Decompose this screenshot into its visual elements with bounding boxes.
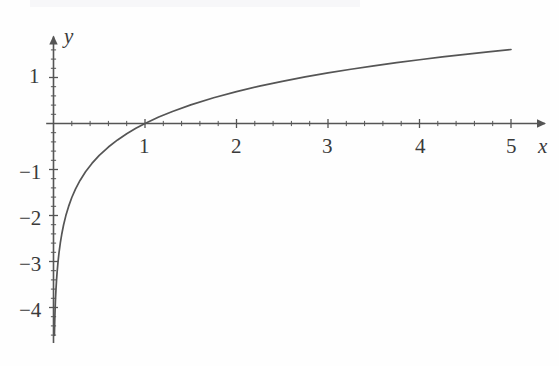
- y-tick-label-1: 1: [29, 66, 40, 87]
- x-tick-label-2: 2: [231, 136, 242, 157]
- tick-marks-group: [49, 50, 511, 335]
- y-tick-label-neg1: −1: [19, 162, 41, 183]
- figure-canvas: 1 2 3 4 5 1 −1 −2 −3 −4 x y: [0, 0, 559, 366]
- x-tick-label-4: 4: [415, 136, 426, 157]
- x-axis-label: x: [538, 136, 547, 157]
- y-tick-label-neg2: −2: [19, 208, 41, 229]
- y-tick-label-neg4: −4: [19, 300, 41, 321]
- x-tick-label-3: 3: [322, 136, 333, 157]
- plot-area: [0, 0, 559, 366]
- x-tick-label-5: 5: [506, 136, 517, 157]
- ln-curve: [54, 49, 511, 335]
- x-tick-label-1: 1: [139, 136, 150, 157]
- y-tick-label-neg3: −3: [19, 254, 41, 275]
- axis-lines-group: [46, 35, 546, 343]
- y-axis-label: y: [64, 26, 73, 47]
